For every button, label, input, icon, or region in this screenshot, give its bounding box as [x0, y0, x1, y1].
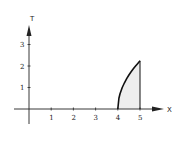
x-tick-label: 3	[94, 114, 98, 122]
axes: X T	[14, 15, 172, 124]
x-tick-label: 1	[49, 114, 53, 122]
y-tick-label: 3	[20, 41, 24, 49]
x-tick-label: 2	[71, 114, 75, 122]
x-axis-label: X	[167, 106, 172, 114]
chart: X T 12345123	[0, 0, 184, 143]
x-tick-label: 4	[116, 114, 121, 122]
y-tick-label: 2	[20, 63, 24, 71]
tick-marks: 12345123	[20, 41, 142, 122]
y-axis-arrow-icon	[27, 25, 32, 36]
shaded-area	[118, 61, 140, 109]
x-tick-label: 5	[138, 114, 142, 122]
y-tick-label: 1	[20, 84, 24, 92]
x-axis-arrow-icon	[152, 107, 164, 112]
y-axis-label: T	[29, 15, 35, 23]
